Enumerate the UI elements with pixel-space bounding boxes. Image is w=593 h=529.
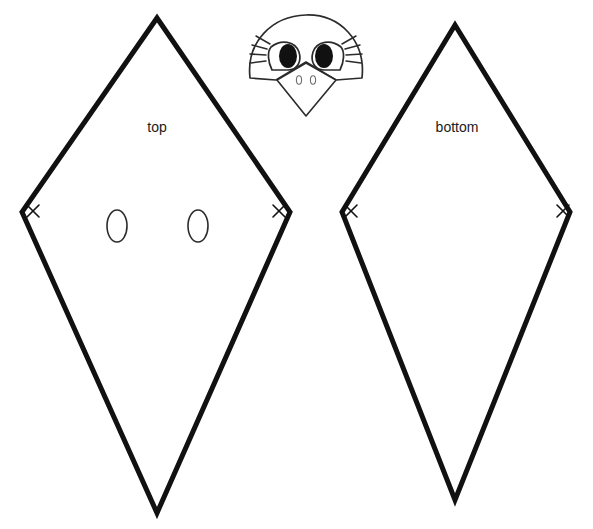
bird-head-group[interactable]: [250, 15, 363, 116]
top-kite-eye-hole-right: [188, 210, 208, 242]
template-canvas: top bottom: [0, 0, 593, 529]
piece-top-kite[interactable]: top: [22, 18, 290, 513]
craft-template-drawing: top bottom: [0, 0, 593, 529]
top-kite-eye-hole-left: [107, 210, 127, 242]
top-kite-label: top: [147, 119, 167, 135]
right-eye-pupil: [315, 44, 333, 68]
left-nostril: [296, 76, 301, 84]
right-nostril: [310, 76, 315, 84]
bottom-kite-outline[interactable]: [342, 25, 570, 500]
piece-bottom-kite[interactable]: bottom: [342, 25, 570, 500]
top-kite-outline[interactable]: [22, 18, 290, 513]
bottom-kite-label: bottom: [436, 119, 479, 135]
left-eye-pupil: [279, 44, 297, 68]
